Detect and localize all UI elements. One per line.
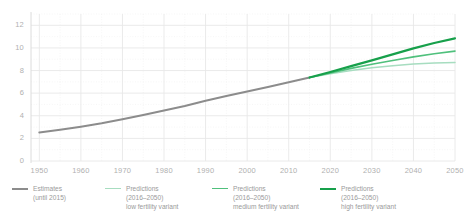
y-tick-label: 2: [2, 133, 24, 142]
legend-label: Predictions(2016–2050)high fertility var…: [341, 184, 396, 212]
series-line-1: [310, 63, 455, 78]
legend-label: Predictions(2016–2050)medium fertility v…: [233, 184, 299, 212]
y-tick-label: 4: [2, 111, 24, 120]
legend-label-line: low fertility variant: [126, 202, 178, 211]
legend-item[interactable]: Predictions(2016–2050)high fertility var…: [320, 184, 396, 212]
x-tick-label: 1960: [63, 166, 99, 175]
legend-label-line: (2016–2050): [126, 193, 178, 202]
legend-label-line: medium fertility variant: [233, 202, 299, 211]
series-line-0: [39, 78, 309, 133]
y-tick-label: 12: [2, 20, 24, 29]
legend-label-line: (until 2015): [33, 193, 66, 202]
y-tick-label: 6: [2, 88, 24, 97]
legend-item[interactable]: Estimates(until 2015): [12, 184, 66, 202]
legend-label-line: high fertility variant: [341, 202, 396, 211]
legend-label-line: Estimates: [33, 184, 66, 193]
legend-label: Predictions(2016–2050)low fertility vari…: [126, 184, 178, 212]
y-tick-label: 10: [2, 43, 24, 52]
legend-label-line: (2016–2050): [341, 193, 396, 202]
x-tick-label: 1990: [188, 166, 224, 175]
legend-line-swatch: [320, 188, 336, 190]
legend-label-line: Predictions: [126, 184, 178, 193]
x-tick-label: 2020: [312, 166, 348, 175]
y-tick-label: 8: [2, 66, 24, 75]
legend-label-line: Predictions: [233, 184, 299, 193]
legend-label-line: (2016–2050): [233, 193, 299, 202]
legend-line-swatch: [12, 188, 28, 190]
major-gridlines: [31, 14, 455, 161]
x-tick-label: 1970: [104, 166, 140, 175]
x-tick-label: 2040: [395, 166, 431, 175]
x-tick-label: 1950: [21, 166, 57, 175]
series-line-3: [310, 38, 455, 77]
legend-item[interactable]: Predictions(2016–2050)low fertility vari…: [105, 184, 178, 212]
minor-gridlines: [31, 14, 455, 161]
population-projection-chart: 024681012 195019601970198019902000201020…: [0, 0, 464, 216]
legend-label: Estimates(until 2015): [33, 184, 66, 202]
x-tick-label: 2010: [271, 166, 307, 175]
y-tick-label: 0: [2, 156, 24, 165]
x-tick-label: 2050: [437, 166, 464, 175]
legend-line-swatch: [212, 188, 228, 189]
x-tick-label: 2000: [229, 166, 265, 175]
x-tick-label: 1980: [146, 166, 182, 175]
legend-item[interactable]: Predictions(2016–2050)medium fertility v…: [212, 184, 299, 212]
chart-legend: Estimates(until 2015)Predictions(2016–20…: [0, 184, 464, 216]
legend-label-line: Predictions: [341, 184, 396, 193]
x-tick-label: 2030: [354, 166, 390, 175]
legend-line-swatch: [105, 188, 121, 189]
